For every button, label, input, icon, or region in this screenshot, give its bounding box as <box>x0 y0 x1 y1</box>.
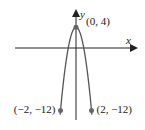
data-point <box>74 25 79 30</box>
point-label: (−2, −12) <box>14 103 56 116</box>
x-axis-label: x <box>125 34 131 46</box>
data-point <box>89 108 94 113</box>
y-axis-label: y <box>79 8 85 20</box>
point-label: (0, 4) <box>86 15 110 28</box>
point-label: (2, −12) <box>97 103 133 116</box>
parabola-plot: x y (0, 4)(−2, −12)(2, −12) <box>0 0 145 130</box>
data-point <box>58 108 63 113</box>
